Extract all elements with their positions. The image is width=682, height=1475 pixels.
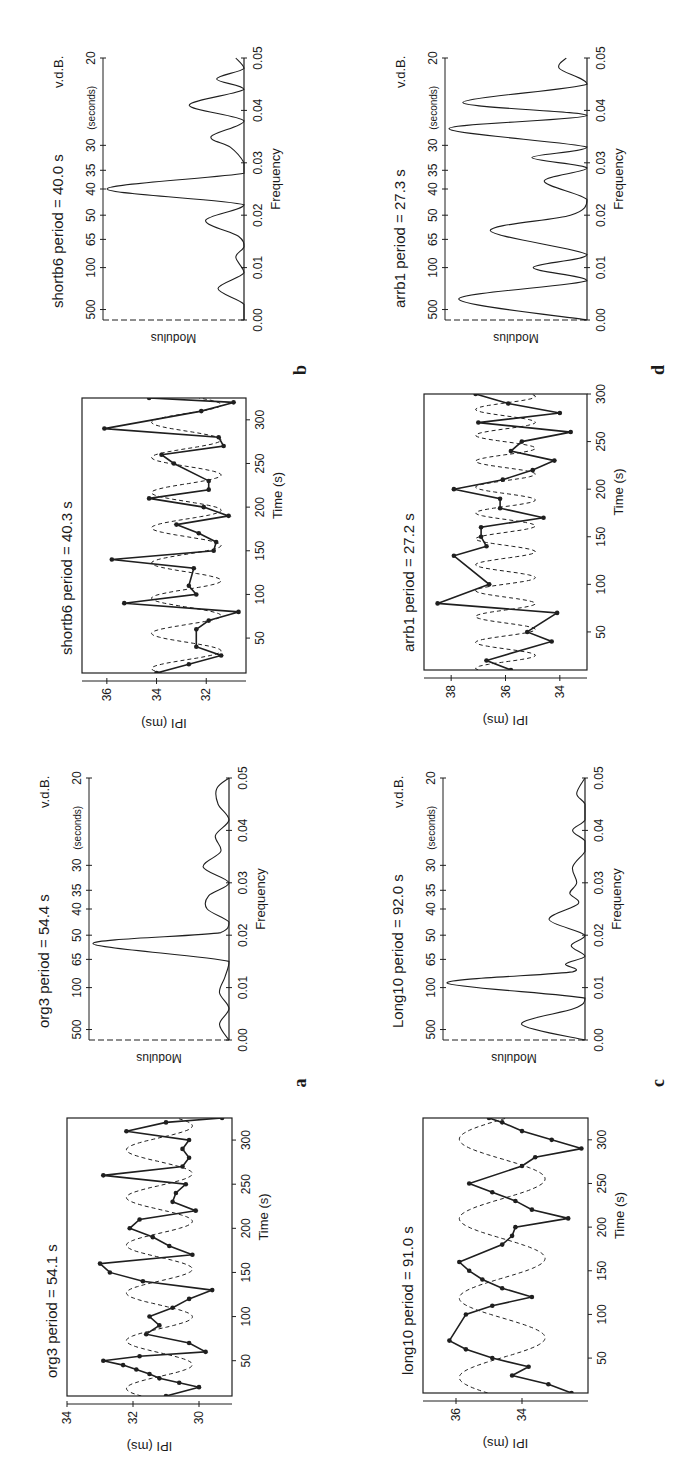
freq-tick-label: 0.03 — [251, 151, 265, 175]
vdb-annotation: v.d.B. — [391, 776, 406, 808]
x-tick-label: 100 — [239, 1306, 253, 1326]
data-point-marker — [187, 662, 192, 667]
spectrum-title: org3 period = 54.4 s — [35, 894, 52, 1028]
data-point-marker — [236, 610, 241, 615]
data-point-marker — [473, 392, 478, 397]
data-point-marker — [170, 1305, 175, 1310]
data-point-marker — [220, 1116, 225, 1121]
y-tick-label: 34 — [515, 1408, 529, 1422]
data-point-marker — [510, 1234, 515, 1239]
spectrum-title: shortb6 period = 40.0 s — [49, 154, 66, 308]
y-tick-label: 36 — [449, 1408, 463, 1422]
timeseries-plot-a: org3 period = 54.1 s50100150200250300Tim… — [43, 1116, 271, 1454]
data-point-marker — [174, 522, 179, 527]
data-point-marker — [172, 461, 177, 466]
seconds-unit-label: (seconds) — [428, 86, 439, 130]
data-point-marker — [108, 1270, 113, 1275]
period-tick-label: 30 — [424, 858, 438, 872]
spectrum-curve — [107, 58, 244, 320]
data-point-marker — [210, 1288, 215, 1293]
data-point-marker — [447, 1338, 452, 1343]
data-point-marker — [187, 583, 192, 588]
period-tick-label: 65 — [426, 232, 440, 246]
period-tick-label: 20 — [84, 51, 98, 65]
period-tick-label: 30 — [84, 138, 98, 152]
x-tick-label: 200 — [239, 1218, 253, 1238]
x-tick-label: 300 — [253, 409, 267, 429]
period-tick-label: 50 — [70, 928, 84, 942]
data-point-marker — [520, 1129, 525, 1134]
timeseries-plot-c: long10 period = 91.0 s50100150200250300T… — [399, 1116, 627, 1451]
data-point-marker — [122, 601, 127, 606]
freq-tick-label: 0.00 — [592, 1028, 606, 1052]
data-point-marker — [509, 449, 514, 454]
data-point-marker — [180, 1164, 185, 1169]
seconds-unit-label: (seconds) — [426, 806, 437, 850]
period-tick-label: 35 — [70, 883, 84, 897]
freq-tick-label: 0.02 — [236, 923, 250, 947]
period-tick-label: 500 — [424, 1019, 438, 1039]
period-tick-label: 50 — [84, 208, 98, 222]
data-point-marker — [157, 1323, 162, 1328]
data-point-marker — [164, 1394, 169, 1399]
data-point-marker — [137, 1217, 142, 1222]
spectrum-title: Long10 period = 92.0 s — [389, 874, 406, 1028]
period-tick-label: 20 — [426, 51, 440, 65]
data-point-marker — [164, 1120, 169, 1125]
data-point-marker — [159, 452, 164, 457]
y-tick-label: 36 — [499, 685, 513, 699]
x-tick-label: 100 — [594, 574, 608, 594]
vdb-annotation: v.d.B. — [51, 56, 66, 88]
data-point-marker — [452, 553, 457, 558]
period-tick-label: 40 — [426, 182, 440, 196]
data-point-marker — [490, 1303, 495, 1308]
x-tick-label: 50 — [239, 1354, 253, 1368]
data-point-marker — [479, 525, 484, 530]
data-point-marker — [526, 1365, 531, 1370]
data-point-marker — [187, 1297, 192, 1302]
panel-d: arrb1 period = 27.2 s50100150200250300Ti… — [391, 46, 668, 728]
period-tick-label: 100 — [84, 257, 98, 277]
data-point-marker — [199, 409, 204, 414]
spectrum-curve — [93, 778, 229, 1040]
data-point-marker — [167, 1244, 172, 1249]
period-tick-label: 100 — [424, 977, 438, 997]
panel-label-d: d — [648, 365, 668, 375]
data-point-marker — [196, 531, 201, 536]
panel-label-a: a — [290, 1079, 310, 1088]
x-tick-label: 100 — [595, 1304, 609, 1324]
data-point-marker — [487, 582, 492, 587]
x-tick-label: 100 — [253, 584, 267, 604]
freq-tick-label: 0.01 — [592, 976, 606, 1000]
data-point-marker — [569, 1391, 574, 1396]
freq-tick-label: 0.05 — [236, 766, 250, 790]
data-point-marker — [147, 1372, 152, 1377]
data-point-marker — [484, 544, 489, 549]
y-tick-label: 34 — [150, 688, 164, 702]
data-point-marker — [464, 1312, 469, 1317]
freq-tick-label: 0.04 — [251, 98, 265, 122]
x-tick-label: 250 — [253, 453, 267, 473]
x-tick-label: 200 — [594, 479, 608, 499]
data-point-marker — [121, 1363, 126, 1368]
data-point-marker — [549, 639, 554, 644]
panel-label-c: c — [648, 1079, 668, 1087]
period-tick-label: 30 — [70, 858, 84, 872]
data-point-marker — [513, 1199, 518, 1204]
data-point-marker — [484, 658, 489, 663]
data-point-marker — [193, 1208, 198, 1213]
data-point-marker — [194, 627, 199, 632]
data-point-marker — [513, 1225, 518, 1230]
data-point-marker — [479, 534, 484, 539]
data-point-marker — [500, 1242, 505, 1247]
plot-frame — [423, 1118, 588, 1393]
period-tick-label: 35 — [426, 163, 440, 177]
data-point-marker — [530, 468, 535, 473]
data-point-marker — [579, 1146, 584, 1151]
freq-tick-label: 0.00 — [251, 308, 265, 332]
x-tick-label: 250 — [595, 1173, 609, 1193]
freq-tick-label: 0.01 — [236, 976, 250, 1000]
freq-tick-label: 0.02 — [251, 203, 265, 227]
panel-label-b: b — [290, 365, 310, 375]
data-point-marker — [206, 618, 211, 623]
